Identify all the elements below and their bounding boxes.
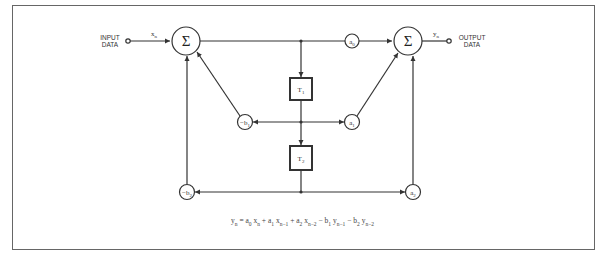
output-label-1: OUTPUT [459,34,486,41]
input-signal-label: xn [151,30,158,39]
sigma-right-symbol: Σ [404,33,413,49]
output-signal-label: yn [433,30,440,39]
output-label-2: DATA [464,41,481,48]
sigma-left-symbol: Σ [182,33,191,49]
output-terminal [447,39,451,43]
input-label-1: INPUT [100,34,120,41]
input-label-2: DATA [102,41,119,48]
input-terminal [126,39,130,43]
difference-equation: yn = a0 xn + a1 xn−1 + a2 xn−2 − b1 yn−1… [0,216,605,227]
